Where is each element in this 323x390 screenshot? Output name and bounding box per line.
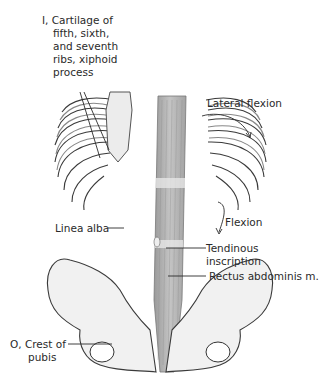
insertion-label: I, Cartilage of fifth, sixth, and sevent… xyxy=(42,14,118,79)
linea-alba-label: Linea alba xyxy=(55,222,109,235)
lateral-flexion-label: Lateral flexion xyxy=(207,97,282,110)
tendinous-inscription-label: Tendinous inscription xyxy=(206,242,261,268)
tendinous-band xyxy=(156,178,185,188)
anatomy-figure: I, Cartilage of fifth, sixth, and sevent… xyxy=(0,0,323,390)
flexion-label: Flexion xyxy=(225,216,262,229)
rectus-abdominis-label: Rectus abdominis m. xyxy=(209,270,319,283)
sternum xyxy=(106,92,132,162)
origin-label: O, Crest of pubis xyxy=(10,338,66,364)
